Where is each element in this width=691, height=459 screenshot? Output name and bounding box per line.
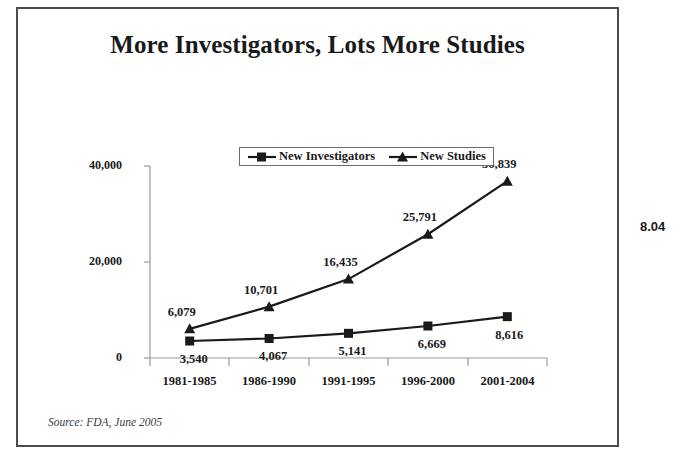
chart-legend[interactable]: New Investigators New Studies: [239, 147, 494, 166]
data-label: 4,067: [259, 349, 287, 364]
data-label: 25,791: [403, 210, 437, 225]
data-point-marker[interactable]: [343, 274, 354, 284]
page-number: 8.04: [640, 219, 665, 234]
x-tick-label-1991-1995: 1991-1995: [309, 374, 388, 389]
data-point-marker[interactable]: [344, 329, 353, 338]
x-tick-label-2001-2004: 2001-2004: [468, 374, 547, 389]
data-label: 16,435: [323, 255, 357, 270]
y-tick-label-0: 0: [60, 350, 122, 365]
data-label: 6,669: [418, 337, 446, 352]
data-point-marker[interactable]: [503, 312, 512, 321]
legend-label-new-investigators: New Investigators: [279, 149, 375, 164]
legend-entry-new-investigators[interactable]: New Investigators: [247, 149, 375, 164]
y-tick-label-40000: 40,000: [60, 158, 122, 173]
square-marker-icon: [247, 150, 277, 164]
slide-frame: More Investigators, Lots More Studies 40…: [16, 7, 619, 447]
data-label: 10,701: [244, 283, 278, 298]
data-point-marker[interactable]: [265, 334, 274, 343]
data-point-marker[interactable]: [185, 337, 194, 346]
legend-label-new-studies: New Studies: [420, 149, 486, 164]
data-point-marker[interactable]: [502, 176, 513, 186]
data-point-marker[interactable]: [422, 229, 433, 239]
y-tick-label-20000: 20,000: [60, 254, 122, 269]
x-tick-label-1996-2000: 1996-2000: [388, 374, 468, 389]
legend-entry-new-studies[interactable]: New Studies: [388, 149, 486, 164]
x-tick-label-1981-1985: 1981-1985: [150, 374, 229, 389]
chart-svg: [134, 140, 554, 355]
x-tick-label-1986-1990: 1986-1990: [229, 374, 309, 389]
chart-plot-area: 40,000 20,000 0 1981-1985 1986-1990 1991…: [134, 140, 554, 355]
data-label: 8,616: [495, 328, 523, 343]
source-note: Source: FDA, June 2005: [48, 416, 162, 428]
page-title: More Investigators, Lots More Studies: [18, 31, 617, 59]
data-label: 6,079: [168, 305, 196, 320]
data-label: 5,141: [338, 344, 366, 359]
triangle-marker-icon: [388, 150, 418, 164]
data-point-marker[interactable]: [423, 321, 432, 330]
data-label: 3,540: [180, 352, 208, 367]
